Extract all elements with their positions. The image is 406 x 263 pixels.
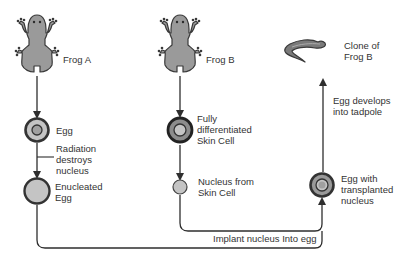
connector-nucleus-to-egg <box>180 195 322 231</box>
egg-with-nucleus-label: Egg with transplanted nucleus <box>341 173 393 206</box>
egg-label: Egg <box>56 125 73 136</box>
frog-a-label: Frog A <box>63 54 91 65</box>
nucleus-from-skin-label: Nucleus from Skin Cell <box>198 176 254 198</box>
egg-with-nucleus-icon <box>311 174 334 197</box>
egg-cell-icon <box>26 119 49 142</box>
frog-b-icon <box>158 15 203 72</box>
enucleated-egg-icon <box>25 179 50 204</box>
egg-develops-label: Egg develops into tadpole <box>333 95 391 117</box>
implant-label: Implant nucleus Into egg <box>213 233 317 244</box>
frog-b-label: Frog B <box>206 54 235 65</box>
tadpole-icon <box>285 40 326 62</box>
radiation-label: Radiation destroys nucleus <box>56 143 96 176</box>
enucleated-egg-label: Enucleated Egg <box>55 181 103 203</box>
frog-a-icon <box>15 15 60 72</box>
skin-cell-icon <box>168 118 192 142</box>
skin-cell-label: Fully differentiated Skin Cell <box>197 113 252 146</box>
nucleus-icon <box>173 180 187 194</box>
clone-label: Clone of Frog B <box>344 40 379 62</box>
